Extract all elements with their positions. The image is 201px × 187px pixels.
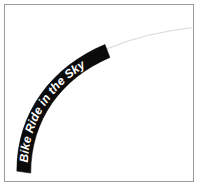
banner-text-path: Bike Ride in the Sky: [17, 57, 89, 163]
screenshot-root: Bike Ride in the Sky: [0, 0, 201, 187]
artwork-panel: Bike Ride in the Sky: [4, 4, 194, 182]
arc-banner-illustration: Bike Ride in the Sky: [5, 5, 193, 181]
banner-text: Bike Ride in the Sky: [17, 57, 89, 163]
